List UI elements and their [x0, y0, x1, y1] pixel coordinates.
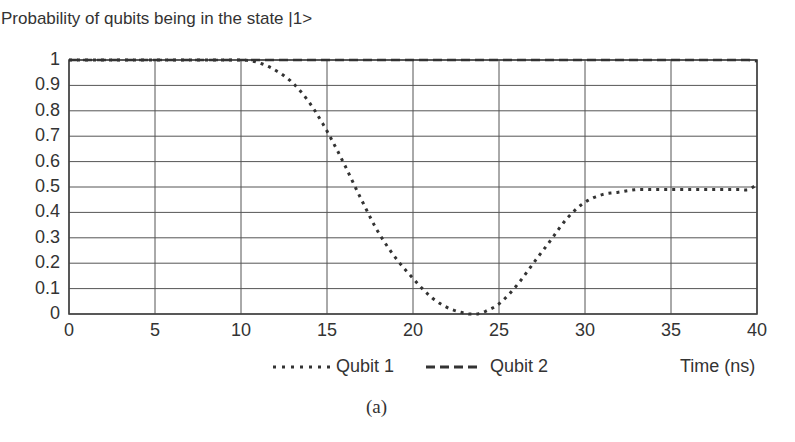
x-tick-label: 10 — [221, 321, 261, 339]
dotted-line-swatch-icon — [272, 365, 330, 369]
y-tick-label: 1 — [2, 50, 60, 68]
x-axis-label: Time (ns) — [680, 356, 755, 377]
y-tick-label: 0.6 — [2, 152, 60, 170]
y-tick-label: 0.5 — [2, 177, 60, 195]
x-tick-label: 5 — [135, 321, 175, 339]
legend-item-qubit-1: Qubit 1 — [272, 356, 394, 377]
plot-area — [0, 0, 795, 442]
y-tick-label: 0.9 — [2, 75, 60, 93]
y-tick-label: 0.1 — [2, 279, 60, 297]
x-tick-label: 20 — [393, 321, 433, 339]
x-tick-label: 30 — [565, 321, 605, 339]
legend-item-qubit-2: Qubit 2 — [426, 356, 548, 377]
y-tick-label: 0.4 — [2, 202, 60, 220]
x-tick-label: 40 — [737, 321, 777, 339]
figure-caption: (a) — [366, 396, 387, 418]
dashed-line-swatch-icon — [426, 365, 484, 369]
legend-label-qubit-2: Qubit 2 — [490, 356, 548, 377]
y-tick-label: 0.3 — [2, 228, 60, 246]
x-tick-label: 0 — [49, 321, 89, 339]
x-tick-label: 15 — [307, 321, 347, 339]
y-tick-label: 0.2 — [2, 253, 60, 271]
y-tick-label: 0.8 — [2, 101, 60, 119]
x-tick-label: 35 — [651, 321, 691, 339]
grid-lines — [69, 60, 757, 314]
legend-label-qubit-1: Qubit 1 — [336, 356, 394, 377]
x-tick-label: 25 — [479, 321, 519, 339]
y-tick-label: 0.7 — [2, 126, 60, 144]
y-tick-label: 0 — [2, 304, 60, 322]
